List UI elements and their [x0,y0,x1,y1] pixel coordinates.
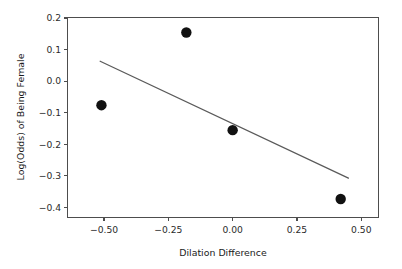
x-tick-label: 0.25 [287,224,308,235]
y-tick-label: −0.1 [39,107,61,118]
plot-frame [68,18,379,218]
data-points-group [96,27,346,204]
y-axis-title: Log(Odds) of Being Female [15,53,26,180]
x-tick-label: 0.50 [351,224,372,235]
y-tick-label: 0.2 [46,12,61,23]
plot-frame-rect [68,18,379,218]
regression-line-group [100,61,348,178]
x-axis-title: Dilation Difference [179,247,267,258]
y-tick-label: −0.2 [39,139,61,150]
data-point [181,27,191,37]
data-point [227,125,237,135]
regression-line [100,61,348,178]
x-tick-label: −0.50 [90,224,118,235]
data-point [335,194,345,204]
chart-figure: 0.20.10.0−0.1−0.2−0.3−0.4 −0.50−0.250.00… [0,0,402,269]
y-tick-label: 0.0 [46,75,61,86]
y-tick-label: −0.3 [39,170,61,181]
x-tick-label: 0.00 [222,224,243,235]
y-tick-label: 0.1 [46,44,61,55]
y-tick-label: −0.4 [39,202,61,213]
x-tick-label: −0.25 [154,224,182,235]
x-axis: −0.50−0.250.000.250.50 [90,217,372,235]
y-axis: 0.20.10.0−0.1−0.2−0.3−0.4 [39,12,68,213]
data-point [96,100,106,110]
scatter-plot-svg: 0.20.10.0−0.1−0.2−0.3−0.4 −0.50−0.250.00… [0,0,402,269]
